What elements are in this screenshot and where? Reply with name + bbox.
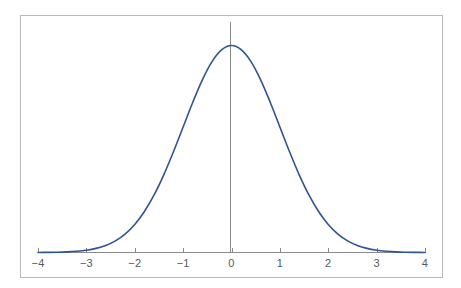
normal-density-curve <box>38 46 425 253</box>
x-tick-label-neg2: −2 <box>121 257 149 269</box>
x-tick-label-3: 3 <box>363 257 391 269</box>
x-tick-label-neg3: −3 <box>72 257 100 269</box>
x-tick-label-2: 2 <box>314 257 342 269</box>
normal-distribution-chart <box>0 0 461 288</box>
figure-root: −4−3−2−101234 <box>0 0 461 288</box>
x-tick-label-1: 1 <box>266 257 294 269</box>
x-tick-label-4: 4 <box>411 257 439 269</box>
x-tick-label-neg1: −1 <box>169 257 197 269</box>
x-tick-label-neg4: −4 <box>24 257 52 269</box>
x-tick-label-0: 0 <box>218 257 246 269</box>
